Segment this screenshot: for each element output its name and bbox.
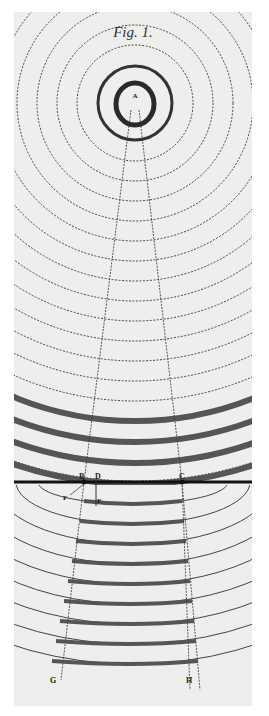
label-c: C bbox=[179, 472, 185, 481]
thick-bands-above bbox=[0, 0, 269, 484]
source-ring-outer bbox=[98, 66, 172, 140]
label-e: E bbox=[97, 497, 102, 505]
thick-band bbox=[0, 0, 269, 484]
source-ring-inner bbox=[116, 83, 154, 125]
dashed-wavefront bbox=[0, 0, 269, 381]
ray-line bbox=[182, 482, 200, 690]
lower-band-segment bbox=[72, 561, 188, 564]
ray-line bbox=[139, 110, 182, 482]
lower-band-segment bbox=[60, 621, 194, 624]
dashed-wavefront bbox=[77, 45, 193, 161]
label-h: H bbox=[186, 676, 193, 685]
segment-bf bbox=[70, 484, 84, 495]
lower-band-segment bbox=[52, 661, 198, 664]
figure-diagram: Fig. 1. A B D C E F G H bbox=[0, 0, 269, 716]
lower-band-segment bbox=[56, 641, 196, 644]
lower-band-segment bbox=[76, 541, 186, 544]
dashed-wavefront bbox=[0, 0, 269, 301]
label-d: D bbox=[95, 472, 101, 481]
thick-band bbox=[0, 0, 269, 421]
dashed-wavefront bbox=[57, 25, 213, 181]
dashed-wavefront bbox=[0, 0, 269, 341]
label-b: B bbox=[79, 472, 85, 481]
label-a: A bbox=[132, 92, 137, 100]
lower-band-segment bbox=[80, 521, 184, 524]
lower-band-segment bbox=[68, 581, 190, 584]
label-g: G bbox=[50, 676, 56, 685]
label-f: F bbox=[63, 494, 67, 502]
dashed-wavefront bbox=[0, 0, 269, 421]
lower-band-segment bbox=[64, 601, 192, 604]
ray-line bbox=[182, 482, 190, 690]
thick-band bbox=[0, 0, 269, 463]
